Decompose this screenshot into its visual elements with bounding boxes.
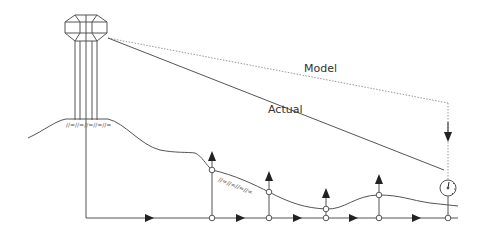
demand-arrows <box>208 151 383 198</box>
distribution-pipe <box>86 120 458 218</box>
up-arrow-icon <box>208 151 216 161</box>
flow-arrow-icon <box>349 214 358 222</box>
water-tower <box>65 15 107 120</box>
svg-text://=//=//=//=: //=//=//=//= <box>218 175 254 195</box>
svg-text://=//=//=//=//=: //=//=//=//=//= <box>66 121 111 128</box>
up-arrow-icon <box>322 188 330 198</box>
up-arrow-icon <box>265 171 273 181</box>
ground-hatch: //=//=//=//=//= //=//=//=//= <box>66 121 254 196</box>
actual-label: Actual <box>268 103 302 116</box>
pressure-gauge-icon <box>440 180 456 196</box>
up-arrow-icon <box>375 174 383 184</box>
flow-arrow-icon <box>412 214 421 222</box>
flow-arrow-icon <box>145 214 154 222</box>
model-label: Model <box>304 62 337 75</box>
terrain <box>28 119 458 209</box>
flow-arrow-icon <box>293 214 302 222</box>
diagram-canvas: //=//=//=//=//= //=//=//=//= <box>0 0 482 231</box>
service-nodes <box>209 167 451 221</box>
flow-arrow-icon <box>236 214 245 222</box>
